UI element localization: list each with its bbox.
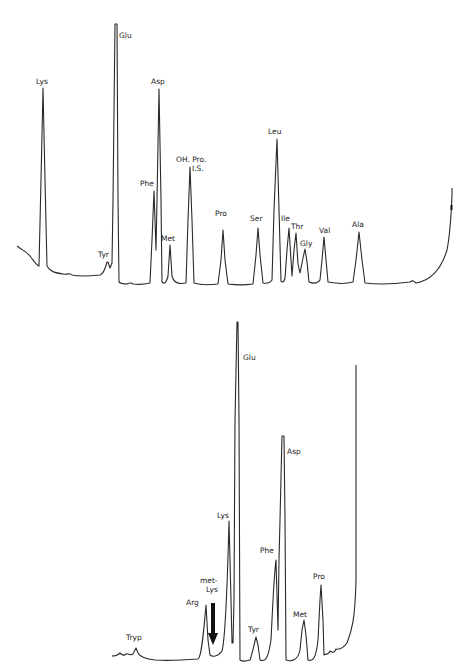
peak-label: Lys (206, 585, 218, 594)
peak-label: Tryp (125, 633, 142, 642)
upper-peak-labels: Lys Glu Asp OH. Pro. I.S. Phe Met Tyr Pr… (36, 31, 364, 259)
peak-label: met- (200, 576, 218, 585)
peak-label: Lys (217, 511, 229, 520)
peak-label: Glu (243, 353, 256, 362)
peak-label: Val (319, 226, 330, 235)
peak-label: Asp (287, 447, 301, 456)
peak-label: Phe (260, 546, 274, 555)
peak-label: Leu (268, 127, 282, 136)
lower-chromatogram-trace (112, 322, 356, 661)
peak-label: Thr (290, 222, 304, 231)
met-lys-arrow-icon (208, 603, 218, 645)
peak-label: Ala (352, 220, 364, 229)
peak-label: Tyr (97, 250, 110, 259)
peak-label: Arg (186, 598, 199, 607)
peak-label: Pro (313, 572, 325, 581)
peak-label: OH. Pro. (176, 155, 206, 164)
peak-label: Lys (36, 77, 48, 86)
trace-marker-icon (451, 205, 453, 210)
peak-label: Glu (119, 31, 132, 40)
lower-peak-labels: Glu Asp Lys Phe met- Lys Arg Pro Met Tyr… (125, 353, 325, 642)
peak-label: Asp (151, 77, 165, 86)
peak-label: Met (293, 610, 307, 619)
peak-label: Tyr (247, 625, 260, 634)
peak-label: Ile (281, 214, 290, 223)
chromatogram-figure: Lys Glu Asp OH. Pro. I.S. Phe Met Tyr Pr… (0, 0, 461, 669)
peak-label: Ser (250, 214, 263, 223)
peak-label: Gly (300, 239, 313, 248)
peak-label: Pro (215, 209, 227, 218)
peak-label: Phe (140, 179, 154, 188)
peak-label: I.S. (192, 164, 204, 173)
peak-label: Met (161, 234, 175, 243)
upper-chromatogram-trace (17, 24, 452, 285)
